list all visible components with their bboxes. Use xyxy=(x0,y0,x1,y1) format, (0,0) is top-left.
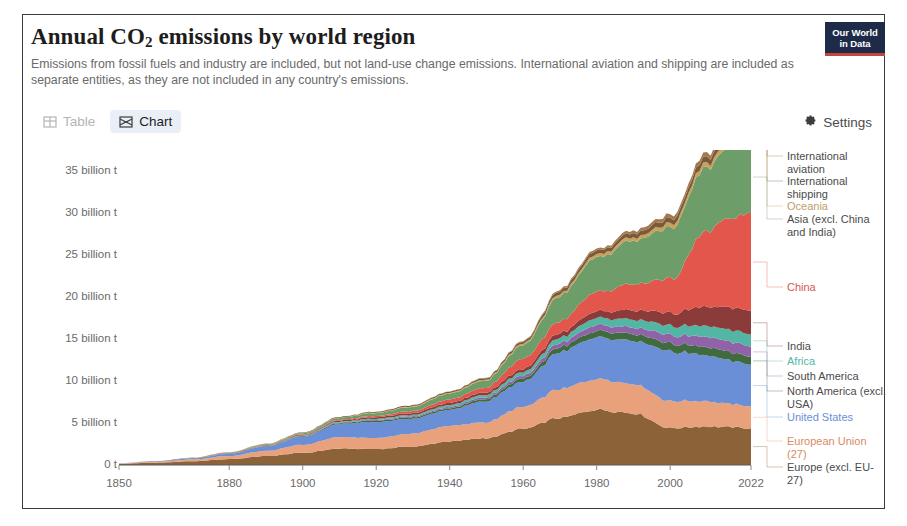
y-axis-tick-label: 35 billion t xyxy=(31,164,117,176)
legend-item[interactable]: South America xyxy=(787,370,887,383)
legend-connector xyxy=(753,150,783,206)
tab-chart-label: Chart xyxy=(139,114,172,129)
owid-logo[interactable]: Our World in Data xyxy=(825,22,885,56)
y-axis-tick-label: 20 billion t xyxy=(31,290,117,302)
legend-connector xyxy=(753,262,783,287)
x-axis-tick-label: 2000 xyxy=(640,477,700,489)
legend-connector xyxy=(753,177,783,219)
stacked-area-icon xyxy=(119,115,133,129)
settings-label: Settings xyxy=(823,115,872,130)
x-axis-tick-label: 1940 xyxy=(420,477,480,489)
gear-icon xyxy=(804,114,817,130)
legend-item[interactable]: Asia (excl. China and India) xyxy=(787,213,887,238)
legend-item[interactable]: United States xyxy=(787,411,887,424)
x-axis-tick-label: 1900 xyxy=(273,477,333,489)
page-title: Annual CO2 emissions by world region xyxy=(31,24,416,51)
logo-line-1: Our World xyxy=(832,27,877,38)
legend-item[interactable]: European Union (27) xyxy=(787,435,887,460)
legend-connector xyxy=(753,150,783,181)
legend-connector xyxy=(753,150,783,156)
legend-item[interactable]: India xyxy=(787,340,887,353)
title-main: Annual CO xyxy=(31,24,145,49)
view-tabs: Table Chart xyxy=(34,110,181,133)
y-axis-tick-label: 5 billion t xyxy=(31,416,117,428)
x-axis-tick-label: 1880 xyxy=(199,477,259,489)
legend-item[interactable]: Africa xyxy=(787,355,887,368)
y-axis-tick-label: 0 t xyxy=(31,458,117,470)
legend-connector xyxy=(753,386,783,417)
x-axis-tick-label: 2022 xyxy=(721,477,781,489)
y-axis-tick-label: 30 billion t xyxy=(31,206,117,218)
x-axis-tick-label: 1920 xyxy=(346,477,406,489)
legend-item[interactable]: Oceania xyxy=(787,200,887,213)
tab-table-label: Table xyxy=(63,114,95,129)
table-grid-icon xyxy=(43,115,57,129)
x-axis-tick-label: 1960 xyxy=(493,477,553,489)
legend-item[interactable]: Europe (excl. EU-27) xyxy=(787,461,887,486)
legend-connector xyxy=(753,417,783,441)
y-axis-tick-label: 25 billion t xyxy=(31,248,117,260)
settings-button[interactable]: Settings xyxy=(802,110,874,134)
y-axis-tick-label: 15 billion t xyxy=(31,332,117,344)
y-axis-tick-label: 10 billion t xyxy=(31,374,117,386)
legend-connector xyxy=(753,447,783,467)
legend-item[interactable]: International aviation xyxy=(787,150,887,175)
tab-chart[interactable]: Chart xyxy=(110,110,181,133)
title-rest: emissions by world region xyxy=(153,24,416,49)
stacked-area-chart xyxy=(31,150,876,495)
logo-line-2: in Data xyxy=(840,38,871,49)
chart-plot-area: 0 t5 billion t10 billion t15 billion t20… xyxy=(31,150,876,495)
legend-item[interactable]: North America (excl. USA) xyxy=(787,385,887,410)
tab-table[interactable]: Table xyxy=(34,110,104,133)
page-subtitle: Emissions from fossil fuels and industry… xyxy=(31,56,801,88)
legend-connector xyxy=(753,323,783,346)
title-subscript: 2 xyxy=(145,34,153,50)
legend-item[interactable]: China xyxy=(787,281,887,294)
x-axis-tick-label: 1980 xyxy=(567,477,627,489)
legend-connector xyxy=(753,341,783,361)
legend-connector xyxy=(753,352,783,376)
x-axis-tick-label: 1850 xyxy=(89,477,149,489)
chart-screenshot: Annual CO2 emissions by world region Emi… xyxy=(0,0,907,526)
legend-item[interactable]: International shipping xyxy=(787,175,887,200)
